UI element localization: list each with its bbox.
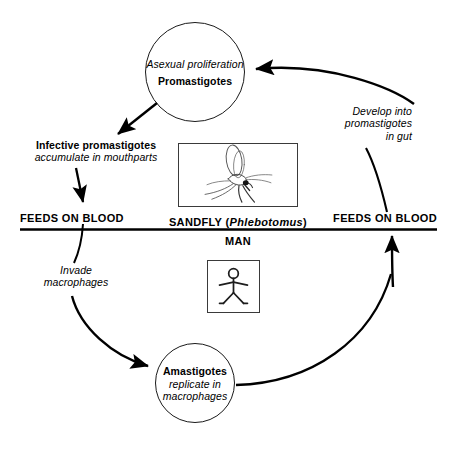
life-cycle-diagram: Asexual proliferation Promastigotes Amas… — [0, 0, 456, 455]
promastigotes-subtitle: Asexual proliferation — [146, 58, 243, 70]
sandfly-head-spot — [243, 180, 249, 185]
arrow-promastigotes-to-infective — [118, 103, 157, 134]
sandfly-caption: SANDFLY (Phlebotomus) — [168, 212, 308, 231]
invade-macrophages-label: Invade macrophages — [26, 264, 126, 289]
arrow-infective-to-feeds-left — [76, 168, 83, 202]
infective-promastigotes-italic-text: accumulate in mouthparts — [6, 151, 186, 163]
infective-promastigotes-label: Infective promastigotes accumulate in mo… — [6, 139, 186, 164]
man-image-box — [207, 260, 260, 313]
promastigotes-node: Asexual proliferation Promastigotes — [145, 22, 245, 122]
develop-into-promastigotes-label: Develop into promastigotes in gut — [300, 105, 412, 142]
arrow-develop-to-promastigotes — [256, 68, 414, 104]
sandfly-image-box — [178, 143, 298, 207]
amastigotes-subtitle-line2: macrophages — [163, 390, 228, 402]
arrow-invade-to-amastigotes — [72, 296, 148, 366]
develop-line1: Develop into — [300, 105, 412, 117]
develop-line2: promastigotes — [300, 117, 412, 129]
man-caption: MAN — [168, 235, 308, 248]
amastigotes-subtitle-line1: replicate in — [169, 378, 221, 390]
stick-figure-icon — [208, 261, 259, 312]
sandfly-caption-close: ) — [303, 216, 307, 228]
promastigotes-title: Promastigotes — [158, 75, 232, 87]
invade-macrophages-line1: Invade — [26, 264, 126, 276]
develop-line3: in gut — [300, 130, 412, 142]
sandfly-genus-text: Phlebotomus — [230, 216, 304, 228]
feeds-on-blood-right-label: FEEDS ON BLOOD — [297, 212, 437, 225]
line-feeds-right-to-develop — [366, 148, 387, 212]
sandfly-caption-text: SANDFLY ( — [169, 216, 230, 228]
amastigotes-title: Amastigotes — [163, 365, 227, 377]
amastigotes-node: Amastigotes replicate in macrophages — [155, 343, 235, 423]
infective-promastigotes-bold-text: Infective promastigotes — [6, 139, 186, 151]
arrow-feeds-right-upward — [392, 236, 393, 287]
sandfly-icon — [179, 144, 297, 206]
feeds-on-blood-left-label: FEEDS ON BLOOD — [20, 212, 124, 225]
invade-macrophages-line2: macrophages — [26, 276, 126, 288]
